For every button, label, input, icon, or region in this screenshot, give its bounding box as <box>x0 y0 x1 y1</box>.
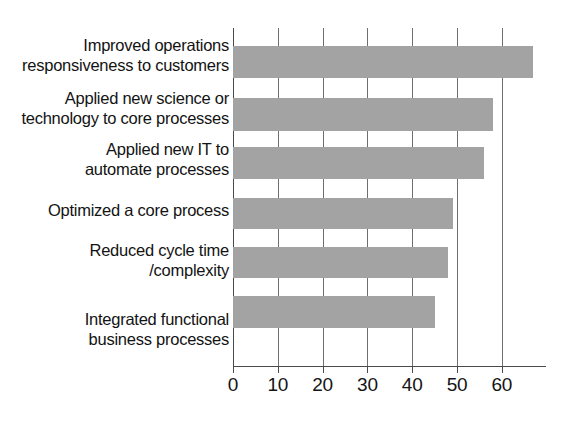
category-label-line: business processes <box>0 330 229 350</box>
category-label-line: Improved operations <box>0 36 229 56</box>
x-tick-mark-50 <box>457 366 458 373</box>
category-label-line: /complexity <box>0 261 229 281</box>
category-label-line: technology to core processes <box>0 109 229 129</box>
category-label: Optimized a core process <box>0 201 231 221</box>
category-label: Reduced cycle time/complexity <box>0 241 231 280</box>
category-label-line: Reduced cycle time <box>0 241 229 261</box>
bar-chart: 0102030405060Improved operationsresponsi… <box>0 0 566 436</box>
x-tick-mark-20 <box>323 366 324 373</box>
x-tick-label-40: 40 <box>402 374 423 396</box>
category-label: Integrated functionalbusiness processes <box>0 310 231 349</box>
x-tick-label-50: 50 <box>447 374 468 396</box>
bar <box>233 198 453 229</box>
category-label-line: Integrated functional <box>0 310 229 330</box>
category-label-line: Applied new IT to <box>0 140 229 160</box>
bar <box>233 247 448 278</box>
gridline-50 <box>457 28 458 366</box>
x-tick-label-10: 10 <box>267 374 288 396</box>
x-tick-mark-30 <box>367 366 368 373</box>
category-label: Applied new IT toautomate processes <box>0 140 231 179</box>
bar <box>233 46 533 78</box>
x-tick-label-60: 60 <box>491 374 512 396</box>
category-label: Applied new science ortechnology to core… <box>0 89 231 128</box>
category-label-line: Applied new science or <box>0 89 229 109</box>
x-tick-mark-60 <box>502 366 503 373</box>
x-tick-mark-10 <box>278 366 279 373</box>
category-label-line: automate processes <box>0 160 229 180</box>
bar <box>233 296 435 328</box>
gridline-60 <box>502 28 503 366</box>
x-tick-label-30: 30 <box>357 374 378 396</box>
x-tick-label-0: 0 <box>228 374 238 396</box>
category-label-line: Optimized a core process <box>0 201 229 221</box>
bar <box>233 98 493 131</box>
x-tick-mark-40 <box>412 366 413 373</box>
bar <box>233 147 484 179</box>
category-label-line: responsiveness to customers <box>0 56 229 76</box>
x-tick-label-20: 20 <box>312 374 333 396</box>
category-label: Improved operationsresponsiveness to cus… <box>0 36 231 75</box>
x-axis-line <box>233 366 546 367</box>
x-tick-mark-0 <box>233 366 234 373</box>
